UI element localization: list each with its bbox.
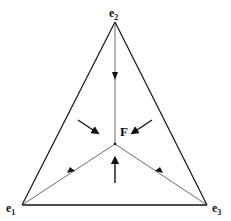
arrow-up-left-icon bbox=[155, 167, 163, 173]
label-e2: e2 bbox=[109, 6, 118, 22]
label-e1: e1 bbox=[6, 201, 15, 217]
arrow-down-icon bbox=[112, 72, 118, 80]
fixed-point-F bbox=[114, 143, 117, 146]
simplex-diagram: F e2 e1 e3 bbox=[0, 0, 231, 221]
edge-e2-e3 bbox=[115, 22, 207, 205]
arrow-up-right-icon bbox=[67, 167, 75, 173]
arrow-from-right-icon bbox=[134, 120, 152, 132]
edge-e1-e2 bbox=[22, 22, 115, 205]
line-e1-F bbox=[22, 144, 115, 205]
arrow-from-left-icon bbox=[78, 120, 96, 132]
label-F: F bbox=[120, 124, 128, 139]
line-e3-F bbox=[115, 144, 207, 205]
label-e3: e3 bbox=[212, 201, 221, 217]
